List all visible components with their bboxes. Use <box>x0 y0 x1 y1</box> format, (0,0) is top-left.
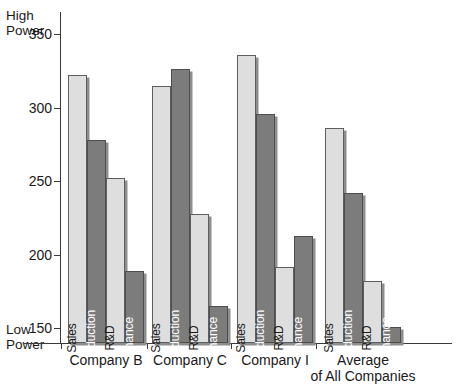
x-group-label-line2: of All Companies <box>293 368 433 384</box>
bar: Production <box>344 193 363 343</box>
bar-label: Sales <box>235 323 247 353</box>
x-group-label-line1: Average <box>293 352 433 368</box>
bar: Finance <box>209 306 228 343</box>
plot-area: SalesProductionR&DFinanceSalesProduction… <box>61 12 452 343</box>
axis-bottom-label-line2: Power <box>6 337 44 352</box>
bar: Finance <box>294 236 313 343</box>
y-tick-mark <box>54 255 61 256</box>
x-group-label: Averageof All Companies <box>293 352 433 384</box>
bar-label: Sales <box>66 323 78 353</box>
bar-label: R&D <box>273 325 285 350</box>
bar: Production <box>171 69 190 343</box>
bar-label: R&D <box>104 325 116 350</box>
bar: Sales <box>152 86 171 343</box>
y-tick-label: 150 <box>8 321 52 335</box>
y-tick-label: 200 <box>8 248 52 262</box>
bar-label: R&D <box>361 325 373 350</box>
x-group-tick <box>316 344 317 349</box>
y-tick-label: 250 <box>8 174 52 188</box>
x-group-tick <box>231 344 232 349</box>
bar-label: Sales <box>150 323 162 353</box>
bar: Finance <box>125 271 144 343</box>
y-tick-mark <box>54 108 61 109</box>
bar: Sales <box>237 55 256 343</box>
x-group-tick <box>147 344 148 349</box>
y-tick-mark <box>54 328 61 329</box>
bar-label: R&D <box>188 325 200 350</box>
x-group-tick <box>61 344 62 349</box>
y-tick-label: 300 <box>8 101 52 115</box>
bar-chart: High Power Low Power 150200250300350 Sal… <box>0 0 456 391</box>
y-tick-mark <box>54 34 61 35</box>
bar-label: Sales <box>323 323 335 353</box>
y-tick-label: 350 <box>8 27 52 41</box>
bar: Production <box>256 114 275 343</box>
y-tick-mark <box>54 181 61 182</box>
axis-top-label-line1: High <box>6 8 44 23</box>
bar: Sales <box>68 75 87 343</box>
bar: Production <box>87 140 106 343</box>
bar: Finance <box>382 327 401 343</box>
